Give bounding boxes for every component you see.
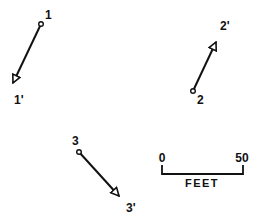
scale-bar-line bbox=[162, 165, 243, 174]
start-point-icon bbox=[77, 150, 82, 155]
vector-2: 2 2' bbox=[191, 19, 230, 107]
vector-1-start-label: 1 bbox=[45, 8, 52, 22]
start-point-icon bbox=[39, 22, 44, 27]
vector-2-start-label: 2 bbox=[197, 93, 204, 107]
vector-3-start-label: 3 bbox=[72, 134, 79, 148]
vector-1-end-label: 1' bbox=[14, 93, 24, 107]
scale-end-label: 50 bbox=[235, 151, 249, 165]
scale-start-label: 0 bbox=[159, 151, 166, 165]
vector-3: 3 3' bbox=[72, 134, 136, 215]
vector-2-end-label: 2' bbox=[220, 19, 230, 33]
vector-3-end-label: 3' bbox=[126, 201, 136, 215]
vector-3-line bbox=[79, 152, 119, 196]
vector-1-line bbox=[13, 24, 41, 83]
scale-unit-label: FEET bbox=[185, 177, 219, 189]
vector-1: 1 1' bbox=[13, 8, 52, 107]
vector-2-line bbox=[193, 42, 216, 91]
displacement-diagram: 1 1' 2 2' 3 3' 0 50 FEET bbox=[0, 0, 261, 219]
scale-bar: 0 50 FEET bbox=[159, 151, 249, 189]
start-point-icon bbox=[191, 89, 196, 94]
